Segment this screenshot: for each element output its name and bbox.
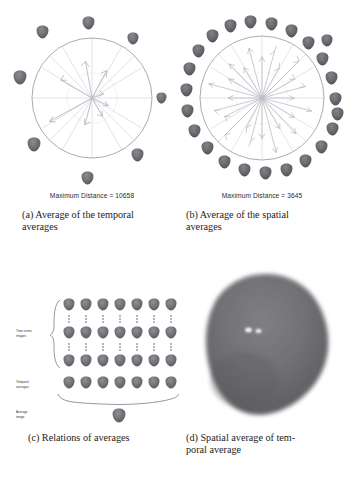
thumbnail-image xyxy=(245,16,257,29)
thumbnail-image xyxy=(182,105,194,118)
panel-b-svg xyxy=(178,8,346,193)
panel-d-caption-line1: (d) Spatial average of tem- xyxy=(186,432,326,444)
thumbnail-image xyxy=(281,164,293,177)
panel-b-polar-canvas xyxy=(178,8,346,193)
panel-b-vectors xyxy=(209,47,311,153)
thumbnail-image xyxy=(260,167,272,180)
grid-thumbnail xyxy=(148,355,159,367)
panel-b-polar-plot: Maximum Distance = 3645 xyxy=(178,8,346,193)
grid-thumbnail xyxy=(148,327,159,339)
panel-d-shading xyxy=(210,352,278,408)
panel-a-thumbnails xyxy=(14,17,167,185)
grid-thumbnail xyxy=(114,327,125,339)
grid-thumbnail xyxy=(63,355,74,367)
panel-a-polar-plot: Maximum Distance = 10658 xyxy=(8,8,176,193)
thumbnail-image xyxy=(193,45,205,58)
panel-b-max-distance-label: Maximum Distance = 3645 xyxy=(178,192,346,199)
thumbnail-image xyxy=(225,20,237,33)
grid-thumbnail xyxy=(165,327,176,339)
panel-c-row-label-average-1: Average xyxy=(16,410,28,414)
grid-thumbnail xyxy=(114,299,125,311)
panel-c-row-label-timeseries-2: images xyxy=(16,334,26,338)
thumbnail-image xyxy=(181,84,193,97)
grid-thumbnail xyxy=(80,327,91,339)
thumbnail-image xyxy=(132,149,144,162)
thumbnail-image xyxy=(82,172,94,185)
bright-spot xyxy=(256,329,262,333)
average-image-thumbnail xyxy=(113,409,126,423)
panel-c-relations-diagram: Time series images Temporal averages Ave… xyxy=(8,288,184,428)
panel-b-caption: (b) Average of the spatial averages xyxy=(186,209,338,234)
grid-thumbnail xyxy=(97,327,108,339)
panel-a-vectors xyxy=(50,61,109,124)
temporal-average-thumbnail xyxy=(131,377,142,389)
grid-thumbnail xyxy=(97,299,108,311)
temporal-average-thumbnail xyxy=(114,377,125,389)
grid-thumbnail xyxy=(97,355,108,367)
panel-d-caption-line2: poral average xyxy=(186,444,338,456)
temporal-average-thumbnail xyxy=(97,377,108,389)
panel-c-grid xyxy=(63,299,176,389)
thumbnail-image xyxy=(317,53,329,66)
thumbnail-image xyxy=(189,125,201,138)
grid-thumbnail xyxy=(114,355,125,367)
grid-thumbnail xyxy=(63,327,74,339)
grid-thumbnail xyxy=(165,299,176,311)
thumbnail-image xyxy=(316,141,328,154)
temporal-average-thumbnail xyxy=(80,377,91,389)
thumbnail-image xyxy=(330,93,342,106)
panel-c-row-label-timeseries-1: Time series xyxy=(16,329,32,333)
panel-c-svg: Time series images Temporal averages Ave… xyxy=(8,288,184,428)
thumbnail-image xyxy=(28,138,41,152)
panel-a-polar-canvas xyxy=(8,8,176,193)
panel-b-caption-line1: (b) Average of the spatial xyxy=(186,209,328,221)
thumbnail-image xyxy=(184,63,196,76)
bright-spot xyxy=(245,328,252,333)
thumbnail-image xyxy=(127,33,138,45)
panel-a-caption-line2: averages xyxy=(22,221,174,233)
panel-b-caption-line2: averages xyxy=(186,221,338,233)
thumbnail-image xyxy=(286,25,298,38)
thumbnail-image xyxy=(207,30,219,43)
panel-c-row-label-temporal-2: averages xyxy=(16,385,29,389)
panel-a-caption: (a) Average of the temporal averages xyxy=(22,209,174,234)
thumbnail-image xyxy=(332,108,344,121)
grid-thumbnail xyxy=(131,299,142,311)
panel-d-blob-image xyxy=(190,268,340,424)
panel-c-ellipsis-row-1 xyxy=(68,315,172,323)
grid-thumbnail xyxy=(131,327,142,339)
panel-c-row-label-temporal-1: Temporal xyxy=(16,380,29,384)
panel-c-left-brace xyxy=(50,300,60,368)
grid-thumbnail xyxy=(131,355,142,367)
panel-d-svg xyxy=(190,268,340,424)
grid-thumbnail xyxy=(63,299,74,311)
panel-a-max-distance-label: Maximum Distance = 10658 xyxy=(8,192,176,199)
grid-thumbnail xyxy=(165,355,176,367)
panel-c-caption: (c) Relations of averages xyxy=(28,432,178,444)
panel-a-caption-line1: (a) Average of the temporal xyxy=(22,209,174,221)
panel-a-svg xyxy=(8,8,176,193)
thumbnail-image xyxy=(219,156,231,169)
temporal-average-thumbnail xyxy=(63,377,74,389)
panel-d-caption: (d) Spatial average of tem- poral averag… xyxy=(186,432,338,457)
thumbnail-image xyxy=(266,18,278,31)
thumbnail-image xyxy=(321,35,332,47)
temporal-average-thumbnail xyxy=(148,377,159,389)
panel-c-caption-line1: (c) Relations of averages xyxy=(28,432,178,444)
panel-c-row-label-average-2: image xyxy=(16,415,25,419)
thumbnail-image xyxy=(326,72,338,85)
thumbnail-image xyxy=(300,155,312,168)
thumbnail-image xyxy=(202,142,214,155)
grid-thumbnail xyxy=(80,355,91,367)
thumbnail-image xyxy=(239,164,251,177)
thumbnail-image xyxy=(14,71,27,85)
thumbnail-image xyxy=(156,93,166,104)
thumbnail-image xyxy=(37,26,49,39)
panel-c-ellipsis-row-2 xyxy=(68,343,172,351)
thumbnail-image xyxy=(327,123,339,136)
panel-c-bottom-brace xyxy=(58,394,179,405)
figure-root: Maximum Distance = 10658 xyxy=(0,0,350,477)
grid-thumbnail xyxy=(148,299,159,311)
temporal-average-thumbnail xyxy=(165,377,176,389)
grid-thumbnail xyxy=(80,299,91,311)
